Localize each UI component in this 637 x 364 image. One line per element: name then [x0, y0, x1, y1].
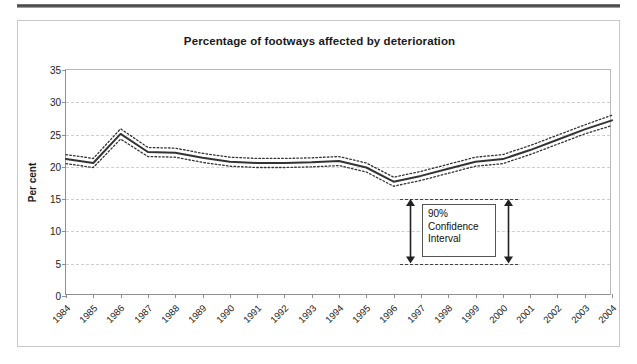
x-tick-label: 2000: [486, 302, 509, 325]
y-tick-label: 5: [55, 258, 61, 269]
y-tick-label: 30: [50, 97, 61, 108]
x-tick-label: 1989: [186, 302, 209, 325]
x-tick-label: 2002: [541, 302, 564, 325]
x-tick-label: 2001: [514, 302, 537, 325]
ci-left-arrow-icon: [405, 199, 416, 264]
y-axis-title: Per cent: [26, 69, 40, 295]
ci-bottom-dashed-line: [400, 264, 518, 265]
ci-label-line3: Interval: [428, 233, 490, 246]
ci-label-box: 90% Confidence Interval: [422, 204, 496, 257]
x-tick-label: 1991: [241, 302, 264, 325]
x-tick-label: 1988: [159, 302, 182, 325]
x-tick-label: 1997: [405, 302, 428, 325]
x-tick-label: 1995: [350, 302, 373, 325]
series-line: [66, 120, 612, 181]
x-tick-label: 1990: [213, 302, 236, 325]
y-tick-label: 25: [50, 129, 61, 140]
plot-area: 05101520253035 1984198519861987198819891…: [65, 69, 611, 295]
x-tick-label: 1998: [432, 302, 455, 325]
x-tick-label: 2004: [596, 302, 619, 325]
y-tick-label: 35: [50, 65, 61, 76]
x-tick-label: 1984: [50, 302, 73, 325]
x-tick-label: 1994: [323, 302, 346, 325]
figure-page: Percentage of footways affected by deter…: [0, 0, 637, 364]
y-tick-label: 15: [50, 194, 61, 205]
x-tick-label: 1986: [104, 302, 127, 325]
y-axis-title-label: Per cent: [28, 162, 39, 201]
x-tick-label: 2003: [568, 302, 591, 325]
y-tick-label: 10: [50, 226, 61, 237]
chart-title: Percentage of footways affected by deter…: [18, 35, 621, 47]
x-tick-label: 1996: [377, 302, 400, 325]
x-tick-label: 1985: [77, 302, 100, 325]
y-tick-label: 0: [55, 291, 61, 302]
y-tick-label: 20: [50, 161, 61, 172]
x-tick-label: 1992: [268, 302, 291, 325]
ci-label-line1: 90%: [428, 208, 490, 221]
x-tick-mark: [612, 294, 613, 298]
ci-right-arrow-icon: [503, 199, 514, 264]
ci-top-dashed-line: [400, 199, 518, 200]
series-line: [66, 115, 612, 177]
x-tick-label: 1987: [132, 302, 155, 325]
ci-label-line2: Confidence: [428, 221, 490, 234]
x-tick-label: 1999: [459, 302, 482, 325]
header-rule: [17, 4, 620, 8]
x-tick-label: 1993: [295, 302, 318, 325]
series-layer: [66, 70, 612, 296]
figure-frame: Percentage of footways affected by deter…: [17, 20, 620, 347]
